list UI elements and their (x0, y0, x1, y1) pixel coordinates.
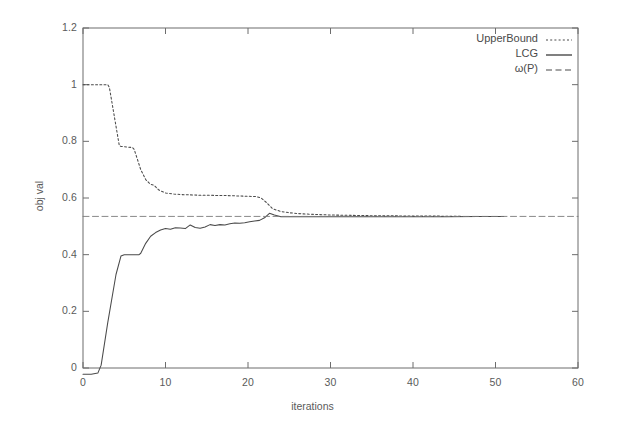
legend-label-p: ω(P) (378, 62, 538, 74)
x-tick-label: 50 (476, 376, 516, 388)
series-line-upperbound (83, 85, 504, 217)
y-tick-label: 1 (37, 78, 77, 90)
legend-label-upperbound: UpperBound (378, 32, 538, 44)
series-line-lcg (83, 213, 504, 374)
y-tick-label: 0.2 (37, 304, 77, 316)
x-tick-label: 60 (558, 376, 598, 388)
legend-label-lcg: LCG (378, 47, 538, 59)
x-axis-title: iterations (0, 400, 625, 412)
x-tick-label: 10 (146, 376, 186, 388)
y-tick-label: 0.8 (37, 134, 77, 146)
x-tick-label: 40 (393, 376, 433, 388)
chart-figure: 010203040506000.20.40.60.811.2iterations… (0, 0, 625, 432)
x-tick-label: 0 (63, 376, 103, 388)
y-axis-title: obj val (33, 146, 45, 246)
plot-border (83, 28, 578, 368)
y-tick-label: 1.2 (37, 21, 77, 33)
x-tick-label: 20 (228, 376, 268, 388)
x-tick-label: 30 (311, 376, 351, 388)
y-tick-label: 0.4 (37, 248, 77, 260)
y-tick-label: 0 (37, 361, 77, 373)
